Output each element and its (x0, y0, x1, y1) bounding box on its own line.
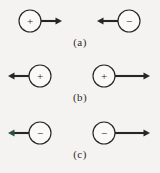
charge-symbol-a-right: − (126, 15, 132, 27)
row-label-a: (a) (0, 37, 160, 48)
arrow-a-left-head (56, 18, 63, 25)
arrow-c-right-head (144, 130, 151, 137)
charge-symbol-c-right: − (101, 127, 107, 139)
arrow-b-right-head (144, 73, 151, 80)
charge-symbol-c-left: − (37, 127, 43, 139)
particle-b-left: + (8, 65, 51, 87)
row-label-b: (b) (0, 92, 160, 103)
row-a-group: + − (19, 10, 140, 32)
row-b-group: + + (8, 65, 150, 87)
charge-symbol-b-right: + (101, 70, 107, 82)
particle-a-right: − (97, 10, 140, 32)
particle-a-left: + (19, 10, 62, 32)
particle-c-right: − (93, 122, 150, 144)
particle-b-right: + (93, 65, 150, 87)
particle-c-left: − (8, 122, 51, 144)
arrow-a-right-head (97, 18, 104, 25)
charge-symbol-a-left: + (27, 15, 33, 27)
arrow-c-left-head (8, 130, 15, 137)
row-c-group: − − (8, 122, 150, 144)
row-label-c: (c) (0, 149, 160, 160)
figure-container: + − + + (0, 0, 160, 173)
charge-symbol-b-left: + (37, 70, 43, 82)
arrow-b-left-head (8, 73, 15, 80)
